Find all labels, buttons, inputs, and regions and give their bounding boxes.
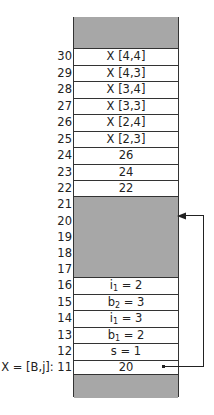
address-label-29: 29 [57, 66, 72, 81]
arrowhead-icon [177, 212, 186, 220]
address-label-22: 22 [57, 181, 72, 196]
address-label-16: 16 [57, 278, 72, 293]
address-label-28: 28 [57, 82, 72, 97]
address-label-27: 27 [57, 99, 72, 114]
pointer-line-horizontal-bottom [164, 366, 203, 367]
address-label-17: 17 [57, 262, 72, 277]
pointer-line-vertical [203, 215, 204, 367]
address-label-13: 13 [57, 328, 72, 343]
address-label-23: 23 [57, 165, 72, 180]
address-label-11: X = [B,j]: 11 [1, 360, 72, 375]
address-label-25: 25 [57, 132, 72, 147]
address-label-12: 12 [57, 344, 72, 359]
pointer-line-horizontal-top [184, 215, 203, 216]
address-label-21: 21 [57, 197, 72, 212]
stack-column-border [73, 17, 179, 397]
address-label-19: 19 [57, 230, 72, 245]
address-label-26: 26 [57, 115, 72, 130]
address-label-15: 15 [57, 295, 72, 310]
address-label-20: 20 [57, 214, 72, 229]
address-label-30: 30 [57, 49, 72, 64]
address-label-18: 18 [57, 246, 72, 261]
address-label-14: 14 [57, 311, 72, 326]
address-label-24: 24 [57, 148, 72, 163]
